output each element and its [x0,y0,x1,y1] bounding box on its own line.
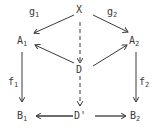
node-x: X [76,5,82,15]
edge-label-g2: g2 [107,7,117,20]
node-d-prime: D' [74,111,86,121]
arrow-g1 [34,15,74,33]
node-d: D [76,65,82,75]
node-a1: A1 [17,36,27,49]
node-b2: B2 [130,111,140,124]
edge-label-g1: g1 [29,7,39,20]
node-a2: A2 [129,36,139,49]
commutative-diagram: X A1 A2 D B1 D' B2 g1 g2 f1 f2 [0,0,158,128]
node-b1: B1 [17,111,27,124]
arrow-d-to-a1 [35,45,74,63]
edge-label-f1: f1 [8,77,18,90]
arrow-d-to-a2 [93,45,127,66]
edge-label-f2: f2 [139,77,149,90]
